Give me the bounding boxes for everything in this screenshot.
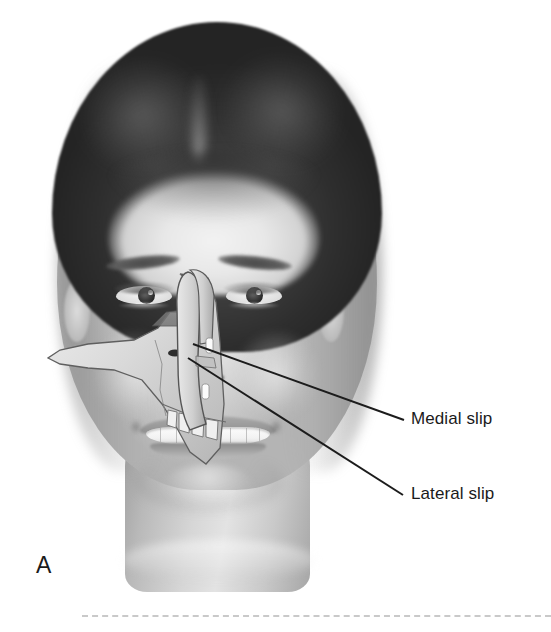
eye-right (226, 284, 282, 306)
tooth-separator (176, 428, 177, 443)
mouth (140, 416, 276, 464)
hair-center-part (188, 76, 210, 162)
label-medial-slip: Medial slip (411, 409, 492, 429)
lower-lip (150, 443, 266, 459)
hairline (104, 152, 324, 222)
label-lateral-slip: Lateral slip (411, 484, 494, 504)
tooth-separator (194, 428, 195, 443)
collarbone-highlight (122, 540, 316, 580)
eye-left (116, 284, 172, 306)
tooth-separator (259, 428, 260, 443)
tooth-separator (230, 428, 231, 443)
lower-eyelid-left (118, 303, 170, 309)
upper-eyelid-right (224, 282, 284, 294)
mouth-corner-right (270, 420, 282, 434)
tooth-separator (212, 428, 213, 443)
tooth-separator (246, 428, 247, 443)
lower-eyelid-right (228, 303, 280, 309)
panel-letter-a: A (36, 552, 51, 579)
anatomy-figure-panel: Medial slip Lateral slip A (0, 0, 551, 632)
tooth-separator (160, 428, 161, 443)
portrait-photograph (30, 12, 405, 592)
cheek-left (92, 332, 174, 418)
chin (162, 464, 254, 510)
upper-eyelid-left (114, 282, 174, 294)
mouth-corner-left (130, 420, 142, 434)
cheek-right (236, 332, 318, 418)
panel-divider (82, 615, 551, 617)
